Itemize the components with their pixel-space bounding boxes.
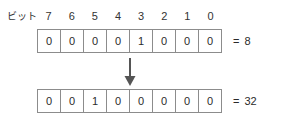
bit-cell: 0	[199, 90, 221, 112]
bit-row-after: 0 0 1 0 0 0 0 0	[37, 89, 222, 113]
bit-index-6: 6	[60, 9, 83, 24]
bit-cell: 0	[107, 90, 130, 112]
bit-cell: 0	[176, 90, 199, 112]
arrow-down-icon	[119, 57, 141, 87]
bit-cell: 0	[153, 30, 176, 52]
bit-shift-diagram: ビット 7 6 5 4 3 2 1 0 0 0 0 0 1 0 0 0 =8 0	[0, 0, 287, 133]
bit-cell: 1	[84, 90, 107, 112]
equals-sign: =	[233, 35, 239, 47]
bit-index-2: 2	[153, 9, 176, 24]
bit-cell: 0	[153, 90, 176, 112]
bit-cell: 0	[38, 90, 61, 112]
bit-axis-label: ビット	[7, 9, 37, 24]
bit-row-before: 0 0 0 0 1 0 0 0	[37, 29, 222, 53]
bit-cell: 0	[61, 90, 84, 112]
value-before: 8	[244, 35, 250, 47]
value-label-before: =8	[233, 32, 283, 50]
bit-index-4: 4	[106, 9, 129, 24]
bit-cell: 0	[176, 30, 199, 52]
bit-cell: 0	[84, 30, 107, 52]
bit-cell: 0	[130, 90, 153, 112]
equals-sign: =	[233, 95, 239, 107]
bit-index-5: 5	[83, 9, 106, 24]
bit-index-1: 1	[176, 9, 199, 24]
value-after: 32	[244, 95, 256, 107]
bit-cell: 0	[199, 30, 221, 52]
bit-index-3: 3	[130, 9, 153, 24]
bit-cell: 0	[107, 30, 130, 52]
bit-index-header: ビット 7 6 5 4 3 2 1 0	[0, 9, 287, 24]
bit-index-0: 0	[199, 9, 222, 24]
value-label-after: =32	[233, 92, 283, 110]
bit-index-7: 7	[37, 9, 60, 24]
bit-index-list: 7 6 5 4 3 2 1 0	[37, 9, 222, 24]
bit-cell: 0	[38, 30, 61, 52]
bit-cell: 1	[130, 30, 153, 52]
bit-cell: 0	[61, 30, 84, 52]
